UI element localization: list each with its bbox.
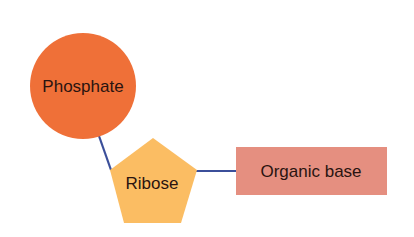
phosphate-label: Phosphate (42, 77, 123, 96)
ribose-node: Ribose (110, 138, 197, 223)
nucleotide-diagram: Phosphate Ribose Organic base (0, 0, 414, 237)
organic-base-label: Organic base (260, 162, 361, 181)
connector-phosphate-ribose (99, 136, 111, 170)
organic-base-node: Organic base (236, 147, 387, 195)
phosphate-node: Phosphate (30, 33, 136, 139)
ribose-label: Ribose (126, 174, 179, 193)
